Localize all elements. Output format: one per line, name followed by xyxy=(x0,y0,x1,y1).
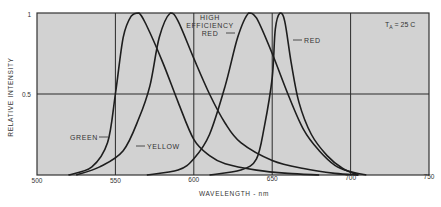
x-tick-700: 700 xyxy=(345,174,356,181)
x-tick-750: 750 xyxy=(424,173,435,180)
label-her-line2: EFFICIENCY xyxy=(186,22,234,29)
label-green: GREEN xyxy=(70,134,98,141)
y-tick-0.5: 0.5 xyxy=(22,91,31,98)
label-yellow: YELLOW xyxy=(147,143,180,150)
x-tick-600: 600 xyxy=(188,176,199,183)
x-tick-650: 650 xyxy=(267,175,278,182)
spectral-chart: GREEN YELLOW HIGH EFFICIENCY RED RED TA … xyxy=(0,0,441,207)
y-axis-label: RELATIVE INTENSITY xyxy=(7,57,14,136)
label-her-line1: HIGH xyxy=(200,14,220,21)
x-tick-500: 500 xyxy=(32,177,43,184)
label-her-line3: RED xyxy=(202,30,219,37)
temp-value: = 25 C xyxy=(393,21,416,28)
y-tick-1: 1 xyxy=(27,11,31,18)
x-tick-550: 550 xyxy=(110,177,121,184)
x-axis-label: WAVELENGTH - nm xyxy=(199,190,269,197)
label-red: RED xyxy=(304,37,321,44)
